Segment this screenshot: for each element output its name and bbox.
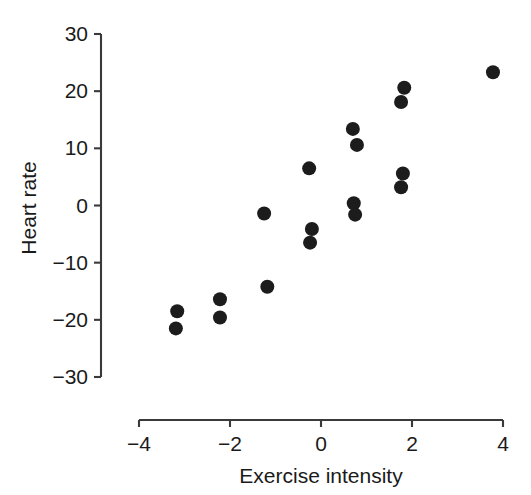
y-axis-title: Heart rate <box>17 161 40 254</box>
x-tick-label: 4 <box>497 432 509 455</box>
data-point <box>396 166 410 180</box>
data-point <box>350 138 364 152</box>
plot-canvas: 3020100−10−20−30 −4−2024 Heart rate Exer… <box>0 0 531 495</box>
data-point <box>348 208 362 222</box>
y-tick-label: 30 <box>65 22 88 45</box>
data-point <box>260 280 274 294</box>
data-point <box>394 95 408 109</box>
data-point <box>346 122 360 136</box>
y-tick-label: 20 <box>65 79 88 102</box>
data-point <box>213 311 227 325</box>
data-point <box>303 236 317 250</box>
scatter-plot-figure: 3020100−10−20−30 −4−2024 Heart rate Exer… <box>0 0 531 495</box>
data-point <box>213 292 227 306</box>
y-tick-label: −30 <box>52 365 88 388</box>
data-point <box>397 81 411 95</box>
x-tick-label: −4 <box>127 432 151 455</box>
y-tick-label: −20 <box>52 308 88 331</box>
data-point <box>257 207 271 221</box>
data-point <box>302 161 316 175</box>
data-point <box>169 321 183 335</box>
y-tick-label: −10 <box>52 251 88 274</box>
y-tick-label: 0 <box>76 194 88 217</box>
data-point <box>170 304 184 318</box>
y-tick-label: 10 <box>65 136 88 159</box>
data-point <box>486 65 500 79</box>
x-tick-label: −2 <box>218 432 242 455</box>
x-tick-label: 2 <box>406 432 418 455</box>
x-axis-title: Exercise intensity <box>239 464 403 487</box>
data-point <box>394 180 408 194</box>
x-tick-label: 0 <box>315 432 327 455</box>
data-point <box>305 222 319 236</box>
